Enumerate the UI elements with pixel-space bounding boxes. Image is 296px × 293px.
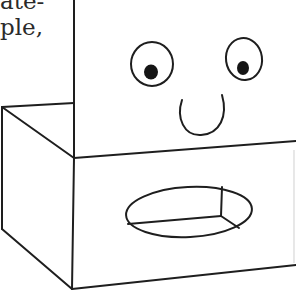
box xyxy=(2,103,296,289)
right-eye-icon xyxy=(223,36,264,83)
mouth-icon xyxy=(180,95,224,135)
left-eye-icon xyxy=(131,42,173,86)
box-side-top-edge xyxy=(2,107,74,158)
tissue-box-illustration xyxy=(0,0,296,293)
box-back-top-edge xyxy=(2,103,74,107)
box-front-corner-edge xyxy=(72,158,74,289)
box-side-bottom-edge xyxy=(2,229,72,289)
box-opening xyxy=(125,184,253,241)
box-front-top-edge xyxy=(74,141,296,158)
box-front-bottom-edge xyxy=(72,265,296,289)
